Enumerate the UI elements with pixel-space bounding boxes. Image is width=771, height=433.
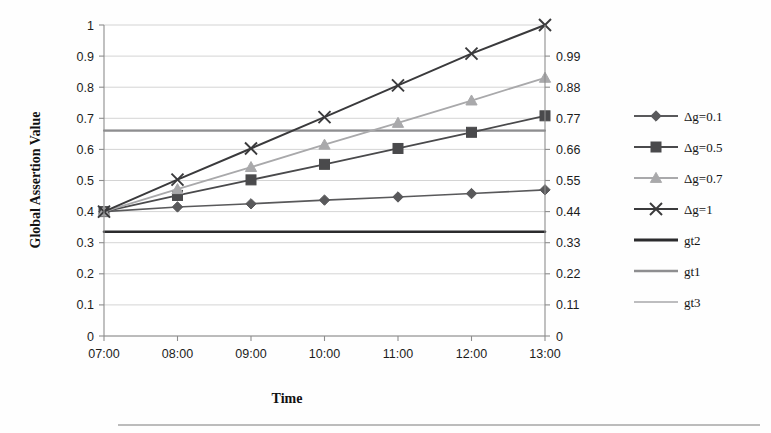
legend-item-label: Δg=0.1 [684,109,722,124]
y-axis-right-tick-label: 0.77 [556,112,580,126]
legend-item-label: gt1 [684,264,701,279]
y-axis-left-tick-label: 0.4 [77,205,94,219]
x-axis-tick-label: 07:00 [88,347,119,361]
y-axis-right-tick-label: 0.66 [556,143,580,157]
data-point-marker [320,159,330,169]
legend-item-label: gt3 [684,295,701,310]
y-axis-left-tick-label: 0 [87,330,94,344]
x-axis-tick-label: 10:00 [309,347,340,361]
x-axis-tick-label: 08:00 [162,347,193,361]
y-axis-right-tick-label: 0 [556,330,563,344]
y-axis-left-tick-label: 0.8 [77,81,94,95]
y-axis-title: Global Assertion Value [28,112,43,249]
legend-item-label: gt2 [684,233,701,248]
y-axis-left-tick-label: 0.9 [77,50,94,64]
y-axis-right-tick-label: 0.33 [556,236,580,250]
y-axis-right-tick-label: 0.11 [556,298,579,312]
legend-item-label: Δg=1 [684,202,713,217]
x-axis-tick-label: 11:00 [383,347,413,361]
y-axis-left-tick-label: 1 [87,19,94,33]
y-axis-right-tick-label: 0.88 [556,81,580,95]
y-axis-left-tick-label: 0.1 [77,298,94,312]
y-axis-right-tick-label: 0.44 [556,205,580,219]
x-axis-tick-label: 12:00 [456,347,487,361]
legend-item-label: Δg=0.7 [684,171,723,186]
data-point-marker [246,175,256,185]
y-axis-right-tick-label: 0.99 [556,50,580,64]
line-chart: 00.10.20.30.40.50.60.70.80.91 00.110.220… [0,0,771,433]
x-axis-tick-label: 13:00 [529,347,560,361]
x-axis-tick-label: 09:00 [235,347,266,361]
x-axis-title: Time [272,391,303,406]
y-axis-left-tick-label: 0.6 [77,143,94,157]
legend-swatch-marker [651,142,661,152]
y-axis-left-tick-label: 0.7 [77,112,94,126]
legend-item-label: Δg=0.5 [684,140,722,155]
y-axis-left-tick-label: 0.5 [77,174,94,188]
data-point-marker [393,143,403,153]
y-axis-right-tick-label: 0.55 [556,174,580,188]
y-axis-left-tick-label: 0.2 [77,267,94,281]
y-axis-left-tick-label: 0.3 [77,236,94,250]
chart-container: 00.10.20.30.40.50.60.70.80.91 00.110.220… [0,0,771,433]
data-point-marker [467,127,477,137]
y-axis-right-tick-label: 0.22 [556,267,580,281]
